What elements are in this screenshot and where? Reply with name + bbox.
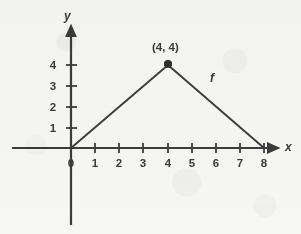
graph-figure: y x (4, 4) f 0 1 2 3 4 5 6 7 8 1 2 3 4 <box>0 0 301 234</box>
x-tick-label-1: 1 <box>87 158 103 170</box>
x-tick-label-3: 3 <box>135 158 151 170</box>
y-axis-label: y <box>64 10 71 22</box>
x-tick-label-2: 2 <box>111 158 127 170</box>
x-tick-label-8: 8 <box>256 158 272 170</box>
vertex-point-marker <box>164 60 172 68</box>
y-tick-label-4: 4 <box>46 60 60 72</box>
x-tick-label-4: 4 <box>160 158 176 170</box>
y-tick-label-3: 3 <box>46 81 60 93</box>
function-name-label: f <box>210 72 214 84</box>
x-axis-label: x <box>285 141 292 153</box>
y-tick-label-1: 1 <box>46 123 60 135</box>
function-curve-f <box>71 65 264 148</box>
x-tick-label-5: 5 <box>184 158 200 170</box>
x-tick-label-0: 0 <box>63 158 79 170</box>
y-tick-label-2: 2 <box>46 102 60 114</box>
x-tick-label-7: 7 <box>232 158 248 170</box>
coordinate-plane <box>0 0 301 234</box>
vertex-coordinate-label: (4, 4) <box>152 42 179 54</box>
x-tick-label-6: 6 <box>208 158 224 170</box>
